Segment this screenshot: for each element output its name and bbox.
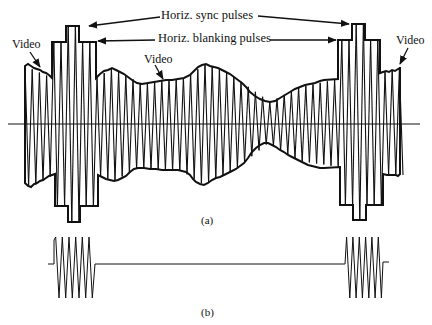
color-burst-waveform	[48, 237, 389, 298]
sync-arrow-left	[89, 17, 160, 26]
blanking-arrow-left	[98, 40, 155, 41]
sync-pulses-label: Horiz. sync pulses	[161, 9, 253, 22]
caption-b: (b)	[201, 307, 214, 318]
blanking-pulses-label: Horiz. blanking pulses	[158, 32, 271, 45]
sync-arrow-right	[258, 16, 349, 24]
carrier-fill	[25, 24, 403, 222]
burst-left	[48, 237, 95, 298]
video-arrow-right	[400, 48, 408, 64]
video-label-right: Video	[396, 34, 425, 46]
waveform-diagram	[0, 0, 432, 325]
video-arrow-center	[155, 65, 163, 79]
video-label-left: Video	[12, 38, 41, 50]
video-arrow-left	[30, 52, 40, 67]
video-label-center: Video	[144, 53, 173, 65]
burst-right	[345, 237, 389, 298]
caption-a: (a)	[201, 215, 213, 226]
